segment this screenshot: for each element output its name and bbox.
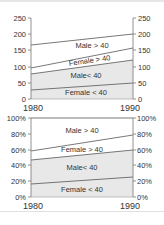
svg-text:60%: 60% (11, 146, 26, 155)
x-labels: 1980 1990 (23, 201, 140, 211)
svg-text:1990: 1990 (120, 103, 140, 113)
svg-text:Male > 40: Male > 40 (75, 41, 108, 50)
svg-text:150: 150 (13, 46, 26, 55)
svg-text:Female > 40: Female > 40 (61, 145, 103, 154)
svg-text:Male< 40: Male< 40 (70, 71, 101, 80)
svg-text:20%: 20% (11, 177, 26, 186)
right-y-labels: 100% 80% 60% 40% 20% 0% (137, 114, 157, 202)
svg-text:Female < 40: Female < 40 (65, 88, 107, 97)
svg-text:250: 250 (138, 14, 151, 23)
left-y-labels: 250 200 150 100 50 0 (13, 14, 26, 104)
left-y-labels: 100% 80% 60% 40% 20% 0% (7, 114, 27, 202)
svg-text:100: 100 (13, 63, 26, 72)
svg-text:250: 250 (13, 14, 26, 23)
bottom-border (0, 211, 164, 212)
svg-text:Male< 40: Male< 40 (66, 163, 97, 172)
svg-text:40%: 40% (137, 161, 152, 170)
svg-text:100%: 100% (137, 114, 157, 123)
svg-text:Female < 40: Female < 40 (61, 185, 103, 194)
x-labels: 1980 1990 (23, 103, 140, 113)
svg-text:1990: 1990 (120, 201, 140, 211)
svg-text:50: 50 (18, 79, 26, 88)
svg-text:200: 200 (138, 30, 151, 39)
charts-svg: 250 200 150 100 50 0 250 200 150 100 50 … (0, 0, 164, 225)
svg-text:60%: 60% (137, 146, 152, 155)
svg-text:200: 200 (13, 30, 26, 39)
svg-text:1980: 1980 (23, 201, 43, 211)
svg-text:150: 150 (138, 46, 151, 55)
absolute-stacked-area-chart: 250 200 150 100 50 0 250 200 150 100 50 … (13, 14, 150, 113)
svg-text:80%: 80% (137, 130, 152, 139)
right-y-labels: 250 200 150 100 50 0 (138, 14, 151, 104)
svg-text:40%: 40% (11, 161, 26, 170)
svg-text:50: 50 (138, 79, 146, 88)
svg-text:Male > 40: Male > 40 (65, 126, 98, 135)
svg-text:100: 100 (138, 63, 151, 72)
svg-text:20%: 20% (137, 177, 152, 186)
svg-text:100%: 100% (7, 114, 27, 123)
svg-text:1980: 1980 (23, 103, 43, 113)
svg-text:80%: 80% (11, 130, 26, 139)
percent-stacked-area-chart: 100% 80% 60% 40% 20% 0% 100% 80% 60% 40%… (7, 114, 157, 211)
